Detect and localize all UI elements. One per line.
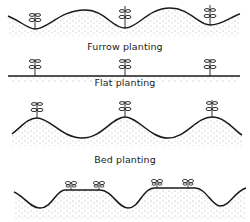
plant-icon: [119, 6, 131, 28]
plant-icon: [206, 100, 218, 117]
ridge-planting-panel: [0, 100, 250, 148]
seedling-icon: [93, 181, 104, 190]
flat-planting-panel: Flat planting: [0, 55, 250, 95]
bed-planting-panel: Bed planting: [0, 154, 250, 222]
plant-icon: [29, 13, 41, 29]
plant-icon: [204, 59, 216, 76]
bed-planting-caption: Bed planting: [0, 154, 250, 165]
furrow-planting-panel: Furrow planting: [0, 0, 250, 50]
seedling-icon: [65, 181, 76, 190]
plant-icon: [119, 101, 131, 117]
seedling-icon: [151, 179, 162, 188]
plant-icon: [29, 59, 41, 76]
furrow-soil-illustration: [0, 0, 250, 40]
plant-icon: [204, 5, 216, 25]
ridge-soil-illustration: [0, 100, 250, 148]
plant-icon: [31, 102, 43, 118]
bed-soil-illustration: [0, 170, 250, 222]
furrow-planting-caption: Furrow planting: [0, 41, 250, 52]
flat-planting-caption: Flat planting: [0, 77, 250, 88]
seedling-icon: [182, 179, 193, 188]
plant-icon: [119, 59, 131, 76]
